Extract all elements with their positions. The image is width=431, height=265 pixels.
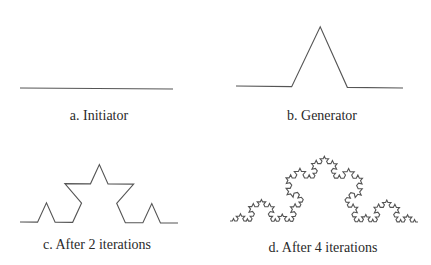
koch-curve-iteration-4 — [230, 156, 418, 222]
caption-generator: b. Generator — [287, 108, 357, 124]
koch-curve-iteration-2 — [20, 165, 178, 223]
caption-initiator: a. Initiator — [70, 108, 128, 124]
generator-curve — [236, 27, 403, 88]
koch-curves-canvas — [0, 0, 431, 265]
caption-after-2-iterations: c. After 2 iterations — [43, 237, 151, 253]
koch-curve-figure: a. Initiator b. Generator c. After 2 ite… — [0, 0, 431, 265]
caption-after-4-iterations: d. After 4 iterations — [269, 240, 378, 256]
initiator-line — [20, 88, 173, 89]
